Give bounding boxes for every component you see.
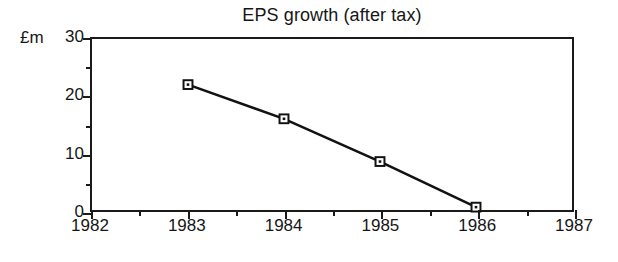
x-axis-tick-label: 1983 [168, 216, 206, 236]
y-axis-tick-label: 30 [44, 27, 84, 47]
x-axis-tick-label: 1987 [555, 216, 593, 236]
x-axis-tick-label: 1986 [458, 216, 496, 236]
y-axis-minor-tick [86, 184, 92, 186]
y-axis-tick-label: 10 [44, 144, 84, 164]
y-axis-minor-tick [86, 126, 92, 128]
y-axis-minor-tick [86, 67, 92, 69]
plot-area [90, 37, 574, 212]
x-axis-tick-label: 1982 [71, 216, 109, 236]
series-line [188, 85, 476, 208]
data-point-center-dot [187, 83, 190, 86]
y-axis-tick-labels: 0102030 [42, 37, 84, 212]
y-axis-major-tick [83, 155, 92, 157]
y-axis-tick-label: 20 [44, 85, 84, 105]
series-layer [92, 39, 572, 210]
chart-screenshot: EPS growth (after tax) £m 0102030 198219… [0, 0, 618, 262]
data-point-center-dot [379, 160, 382, 163]
x-axis-tick-label: 1985 [361, 216, 399, 236]
chart-title: EPS growth (after tax) [90, 5, 574, 26]
y-axis-major-tick [83, 38, 92, 40]
x-axis-tick-label: 1984 [265, 216, 303, 236]
data-point-center-dot [283, 118, 286, 121]
y-axis-unit-label: £m [20, 28, 44, 48]
data-point-center-dot [475, 206, 478, 209]
x-axis-tick-labels: 198219831984198519861987 [90, 216, 574, 244]
y-axis-major-tick [83, 96, 92, 98]
